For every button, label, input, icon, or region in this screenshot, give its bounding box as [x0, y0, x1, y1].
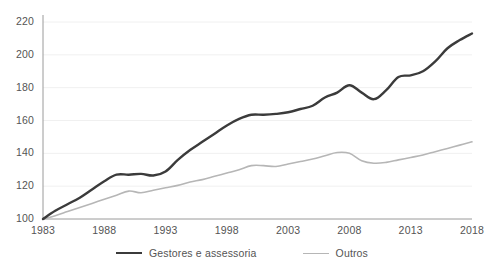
- legend-item[interactable]: Gestores e assessoria: [116, 247, 257, 259]
- x-axis-tick-label: 1993: [146, 224, 186, 236]
- y-axis-tick-label: 180: [8, 81, 34, 93]
- x-axis-tick-label: 1998: [207, 224, 247, 236]
- legend-line-swatch-icon: [303, 253, 329, 254]
- x-axis-tick-label: 2018: [452, 224, 484, 236]
- x-axis-tick-label: 2013: [391, 224, 431, 236]
- chart-legend: Gestores e assessoriaOutros: [0, 243, 484, 263]
- legend-item-label: Outros: [336, 247, 368, 259]
- y-axis-tick-label: 140: [8, 146, 34, 158]
- gridlines: [43, 22, 472, 186]
- x-axis-tick-label: 2008: [329, 224, 369, 236]
- y-axis-tick-label: 220: [8, 15, 34, 27]
- line-chart: 100120140160180200220 198319881993199820…: [0, 0, 484, 271]
- legend-item[interactable]: Outros: [303, 247, 368, 259]
- y-axis-tick-label: 100: [8, 212, 34, 224]
- x-axis-tick-label: 2003: [268, 224, 308, 236]
- legend-item-label: Gestores e assessoria: [149, 247, 257, 259]
- x-axis-tick-label: 1983: [23, 224, 63, 236]
- y-axis-tick-label: 120: [8, 179, 34, 191]
- axis-lines: [43, 15, 472, 219]
- y-axis-tick-label: 160: [8, 114, 34, 126]
- series-line-gestores-e-assessoria: [43, 33, 472, 219]
- y-axis-tick-label: 200: [8, 48, 34, 60]
- x-axis-tick-label: 1988: [84, 224, 124, 236]
- legend-line-swatch-icon: [116, 252, 142, 254]
- series-lines: [43, 33, 472, 219]
